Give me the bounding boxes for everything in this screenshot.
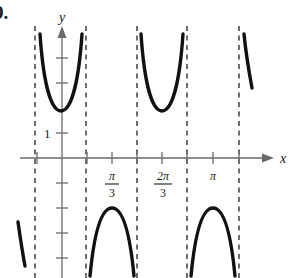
axes-group: [20, 26, 274, 278]
curve-branch-down-2: [191, 208, 235, 276]
figure-screenshot: 9.: [0, 0, 291, 278]
two-pi-over-3-numerator: 2π: [157, 169, 170, 183]
curve-branch-partial-right: [244, 34, 252, 88]
x-tick-label-2pi-over-3: 2π 3: [154, 169, 172, 200]
pi-over-3-numerator: π: [109, 169, 116, 183]
pi-over-3-denominator: 3: [109, 186, 115, 200]
graph-figure: y x 1 π 3 2π 3 π: [0, 0, 291, 278]
curve-group: [18, 34, 252, 276]
two-pi-over-3-denominator: 3: [160, 186, 166, 200]
y-axis-label: y: [57, 10, 66, 25]
x-tick-label-pi-over-3: π 3: [105, 169, 119, 200]
x-axis-arrowhead: [262, 154, 274, 163]
curve-branch-down-1: [90, 208, 134, 276]
y-value-label-one: 1: [44, 126, 51, 141]
curve-branch-up-1: [40, 34, 82, 111]
curve-branch-up-2: [141, 34, 183, 111]
x-axis-label: x: [279, 151, 287, 166]
x-tick-label-pi: π: [210, 169, 217, 183]
curve-branch-partial-left: [18, 222, 25, 266]
y-axis-arrowhead: [58, 26, 67, 38]
